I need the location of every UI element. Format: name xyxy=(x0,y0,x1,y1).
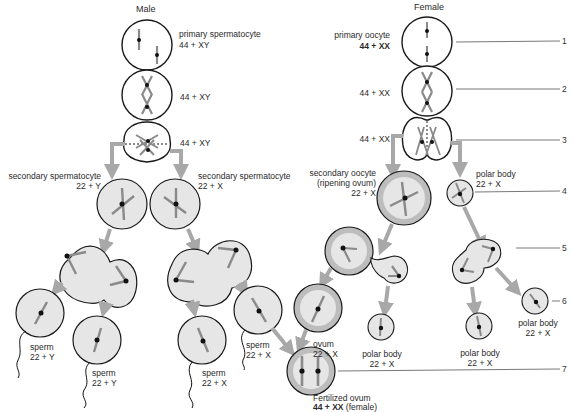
callout-7: 7 xyxy=(562,364,567,374)
fertilized-ovum-sex: (female) xyxy=(346,402,377,412)
secondary-spermatocyte-right-karyotype: 22 + X xyxy=(198,181,223,191)
male-secondary-left xyxy=(97,179,147,229)
male-stage3-dividing-cell xyxy=(124,122,171,162)
fertilized-ovum-karyotype: 44 + XX xyxy=(313,402,343,412)
polar-body-3 xyxy=(466,313,492,339)
sperm-2-karyotype: 22 + Y xyxy=(92,378,117,388)
primary-oocyte-label: primary oocyte xyxy=(300,30,390,40)
female-stage3-dividing-cell xyxy=(402,118,451,160)
female-secondary-oocyte xyxy=(377,171,431,225)
female-primary-oocyte xyxy=(402,17,452,67)
sperm-cell-2 xyxy=(73,316,121,408)
arrow-to-secondary-left xyxy=(112,144,124,172)
male-stage2-karyotype: 44 + XY xyxy=(180,92,210,102)
sperm-1-label: sperm xyxy=(30,342,54,352)
sperm-cell-3 xyxy=(178,316,226,408)
female-ovum xyxy=(294,284,342,332)
male-header: Male xyxy=(136,4,156,14)
polar-body-3-karyotype: 22 + X xyxy=(454,358,506,368)
primary-spermatocyte-label: primary spermatocyte xyxy=(179,29,261,39)
female-stage2-cell xyxy=(402,66,452,116)
arrow-to-secondary-right xyxy=(170,151,181,172)
fertilized-ovum-karyotype-line: 44 + XX (female) xyxy=(313,402,377,412)
secondary-oocyte-karyotype: 22 + X xyxy=(290,188,376,198)
male-stage2-cell xyxy=(122,70,172,120)
ovum-karyotype: 22 + X xyxy=(313,349,338,359)
female-polar-body-1 xyxy=(447,180,473,206)
female-dividing-oocyte xyxy=(325,227,408,283)
meiosis-diagram: Male Female primary spermatocyte 44 + XY… xyxy=(0,0,574,412)
sperm-4-label: sperm xyxy=(246,340,270,350)
sperm-3-label: sperm xyxy=(202,368,226,378)
sperm-3-karyotype: 22 + X xyxy=(202,378,227,388)
female-dividing-polar-body xyxy=(452,239,500,283)
polar-body-1-karyotype: 22 + X xyxy=(476,179,501,189)
sperm-4-karyotype: 22 + X xyxy=(246,350,271,360)
polar-body-3-label: polar body xyxy=(454,348,506,358)
callout-3: 3 xyxy=(562,135,567,145)
polar-body-4 xyxy=(522,288,548,314)
polar-body-4-label: polar body xyxy=(512,318,564,328)
male-stage3-karyotype: 44 + XY xyxy=(180,138,210,148)
sperm-2-label: sperm xyxy=(92,368,116,378)
sperm-cell-1 xyxy=(16,289,64,378)
callout-2: 2 xyxy=(562,84,567,94)
secondary-spermatocyte-left-karyotype: 22 + Y xyxy=(5,181,101,191)
primary-oocyte-karyotype: 44 + XX xyxy=(300,41,390,51)
polar-body-4-karyotype: 22 + X xyxy=(512,328,564,338)
secondary-oocyte-sublabel: (ripening ovum) xyxy=(290,178,376,188)
secondary-spermatocyte-right-label: secondary spermatocyte xyxy=(198,171,291,181)
female-header: Female xyxy=(414,2,444,12)
male-primary-spermatocyte xyxy=(122,20,172,70)
polar-body-1-label: polar body xyxy=(476,169,516,179)
male-secondary-right xyxy=(150,179,200,229)
callout-1: 1 xyxy=(562,36,567,46)
callout-4: 4 xyxy=(562,186,567,196)
female-stage2-karyotype: 44 + XX xyxy=(300,88,390,98)
polar-body-2 xyxy=(368,314,394,340)
polar-body-2-label: polar body xyxy=(356,349,408,359)
secondary-oocyte-label: secondary oocyte xyxy=(290,168,376,178)
polar-body-2-karyotype: 22 + X xyxy=(356,359,408,369)
secondary-spermatocyte-left-label: secondary spermatocyte xyxy=(5,171,101,181)
primary-spermatocyte-karyotype: 44 + XY xyxy=(179,40,209,50)
female-stage3-karyotype: 44 + XX xyxy=(300,134,390,144)
callout-6: 6 xyxy=(562,296,567,306)
ovum-label: ovum xyxy=(313,339,334,349)
sperm-1-karyotype: 22 + Y xyxy=(30,352,55,362)
callout-5: 5 xyxy=(562,243,567,253)
male-dividing-cell-left xyxy=(60,246,137,307)
